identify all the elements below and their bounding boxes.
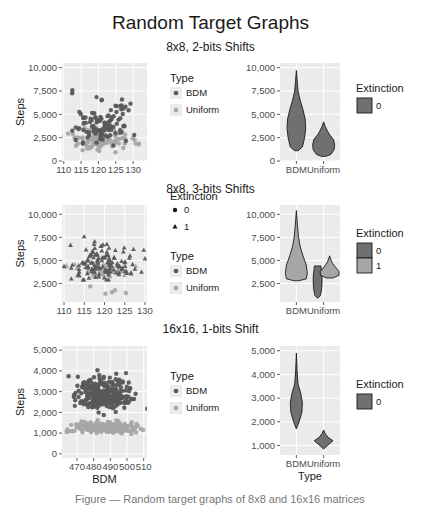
y-tick-label: 7,500 [251,85,275,96]
svg-text:Type: Type [170,72,194,84]
y-tick-label: 5,000 [33,109,57,120]
y-tick-label: 1,000 [33,427,57,438]
x-tick-label: 110 [56,305,71,316]
svg-text:0: 0 [376,396,381,407]
y-axis-title: Steps [14,387,26,416]
x-tick-label: 130 [125,164,141,175]
x-tick-label: Uniform [307,305,340,316]
x-tick-label: 125 [117,305,133,316]
y-axis-title: Steps [14,97,26,126]
y-tick-label: 5,000 [251,345,275,356]
y-tick-label: 7,500 [251,232,275,243]
y-tick-label: 3,000 [33,386,57,397]
svg-text:BDM: BDM [186,87,207,98]
x-tick-label: 470 [69,461,85,472]
svg-text:BDM: BDM [186,265,207,276]
svg-text:0: 0 [184,204,189,215]
violin-panel-1: 02,5005,0007,50010,000BDMUniform [246,62,340,175]
svg-text:Extinction: Extinction [356,227,404,239]
x-tick-label: 115 [77,305,92,316]
y-tick-label: 7,500 [33,232,57,243]
y-tick-label: 10,000 [28,209,57,220]
x-tick-label: 110 [56,164,71,175]
y-tick-label: 2,000 [251,416,275,427]
svg-text:Uniform: Uniform [186,402,219,413]
x-tick-label: 500 [119,461,135,472]
x-tick-label: 125 [108,164,124,175]
y-tick-label: 10,000 [246,62,275,73]
x-tick-label: 490 [102,461,118,472]
svg-text:Extinction: Extinction [356,82,404,94]
y-tick-label: 5,000 [33,344,57,355]
scatter-panel-1: 02,5005,0007,50010,000110115120125130 [28,62,147,175]
y-tick-label: 7,500 [33,85,57,96]
x-tick-label: 120 [90,164,106,175]
y-tick-label: 2,500 [33,132,57,143]
y-tick-label: 2,500 [33,278,57,289]
y-tick-label: 1,000 [251,440,275,451]
y-tick-label: 2,500 [251,278,275,289]
y-tick-label: 0 [270,155,275,166]
scatter-legend: TypeBDMUniform [170,72,219,116]
svg-text:0: 0 [376,100,381,111]
violin-legend: Extinction01 [356,227,404,273]
x-tick-label: 130 [137,305,153,316]
violin-legend: Extinction0 [356,378,404,409]
svg-text:BDM: BDM [186,385,207,396]
y-tick-label: 4,000 [251,369,275,380]
x-tick-label: BDM [286,305,307,316]
y-tick-label: 3,000 [251,392,275,403]
scatter-panel-2: 2,5005,0007,50010,000110115120125130 [28,205,153,316]
x-tick-label: BDM [286,458,307,469]
y-tick-label: 4,000 [33,365,57,376]
scatter-legend: TypeBDMUniform [170,370,219,414]
svg-text:Uniform: Uniform [186,282,219,293]
svg-text:1: 1 [376,260,381,271]
x-axis-title: BDM [92,473,116,485]
svg-text:Extinction: Extinction [170,190,218,202]
x-tick-label: 115 [74,164,89,175]
x-tick-label: Uniform [307,164,340,175]
y-tick-label: 10,000 [246,209,275,220]
svg-text:Extinction: Extinction [356,378,404,390]
y-tick-label: 0 [52,448,57,459]
violin-panel-3: 1,0002,0003,0004,0005,000BDMUniform [251,345,340,469]
y-tick-label: 5,000 [33,255,57,266]
x-tick-label: 480 [86,461,102,472]
violin-panel-2: 2,5005,0007,50010,000BDMUniform [246,205,340,316]
x-tick-label: 120 [97,305,113,316]
violin-legend: Extinction0 [356,82,404,113]
svg-text:Uniform: Uniform [186,104,219,115]
y-tick-label: 5,000 [251,109,275,120]
y-axis-title: Steps [14,239,26,268]
y-tick-label: 5,000 [251,255,275,266]
scatter-legend: Extinction01TypeBDMUniform [170,190,219,294]
x-tick-label: Uniform [307,458,340,469]
svg-text:Type: Type [170,370,194,382]
x-axis-title: Type [298,470,322,482]
svg-text:1: 1 [184,221,189,232]
figure-caption: Figure — Random target graphs of 8x8 and… [75,493,365,505]
svg-text:0: 0 [376,245,381,256]
x-tick-label: 510 [136,461,152,472]
y-tick-label: 2,000 [33,407,57,418]
y-tick-label: 2,500 [251,132,275,143]
x-tick-label: BDM [286,164,307,175]
y-tick-label: 10,000 [28,62,57,73]
svg-text:Type: Type [170,250,194,262]
